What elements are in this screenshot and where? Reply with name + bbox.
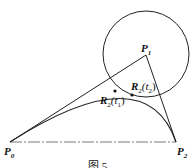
diagram-canvas: P1 P0 P2 R2(t2) R2(t1) 图 5 — [0, 0, 193, 168]
point-r2-t1 — [113, 89, 116, 92]
point-r2-t2 — [130, 93, 133, 96]
figure-caption: 图 5 — [88, 160, 108, 168]
label-r2-t2: R2(t2) — [130, 80, 156, 95]
label-p1: P1 — [141, 42, 151, 57]
bezier-diagram: P1 P0 P2 R2(t2) R2(t1) 图 5 — [0, 0, 193, 168]
segment-p1-p2 — [146, 55, 176, 142]
label-r2-t1: R2(t1) — [99, 94, 125, 109]
label-p0: P0 — [4, 145, 15, 160]
bezier-curve — [10, 99, 176, 143]
label-p2: P2 — [177, 145, 188, 160]
